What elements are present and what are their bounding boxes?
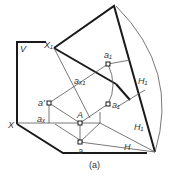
projection-diagram: V X₁ a₁ aₓ₁ H₁ a′ a₁ aₓ A H₁ X a H (a) [0, 0, 173, 176]
caption: (a) [89, 160, 100, 170]
label-h1-bottom: H₁ [134, 122, 143, 132]
label-x: X [7, 120, 15, 130]
label-a: a [78, 146, 83, 156]
v-plane-frame [17, 42, 46, 124]
label-ax: aₓ [37, 114, 46, 124]
label-v: V [20, 44, 27, 54]
x1-axis-ext [116, 84, 130, 100]
label-h1-top: H₁ [138, 76, 147, 86]
label-ax1: aₓ₁ [74, 76, 85, 86]
label-A: A [76, 110, 83, 120]
label-h: H [124, 142, 131, 152]
label-a1-prime: a₁ [104, 50, 112, 60]
label-a1: a₁ [112, 100, 120, 110]
label-x1: X₁ [43, 40, 53, 50]
label-a-prime: a′ [38, 98, 45, 108]
